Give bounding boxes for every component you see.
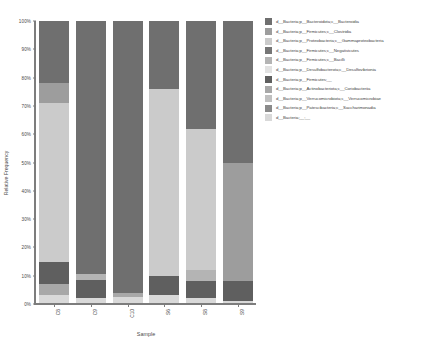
legend-item[interactable]: d__Bacteria;p__Actinobacteriota;c__Corio… (265, 85, 425, 92)
legend-item-label: d__Bacteria;p__Firmicutes;c__Negativicut… (276, 47, 359, 54)
legend-item[interactable]: d__Bacteria;__;__ (265, 114, 425, 121)
y-axis-tick-mark (33, 77, 36, 78)
x-axis-tick-mark (164, 303, 165, 307)
y-axis-tick-mark (33, 304, 36, 305)
legend-color-swatch (265, 38, 272, 45)
y-axis-tick-label: 10% (0, 273, 34, 278)
x-axis-tick-label: C9 (93, 309, 98, 315)
legend-item[interactable]: d__Bacteria;p__Firmicutes;c__Negativicut… (265, 47, 425, 54)
stacked-bar[interactable] (39, 21, 69, 304)
bar-segment[interactable] (223, 21, 253, 163)
legend-item-label: d__Bacteria;p__Proteobacteria;c__Gammapr… (276, 37, 384, 44)
legend-color-swatch (265, 95, 272, 102)
x-axis-tick-mark (238, 303, 239, 307)
legend-item-label: d__Bacteria;__;__ (276, 114, 310, 121)
y-axis-tick-mark (33, 190, 36, 191)
legend-item-label: d__Bacteria;p__Firmicutes;c__Clostridia (276, 28, 351, 35)
legend-item-label: d__Bacteria;p__Firmicutes;c__Bacilli (276, 56, 345, 63)
x-axis-tick-mark (201, 303, 202, 307)
y-axis-tick-mark (33, 134, 36, 135)
x-axis-tick-label: S8 (203, 309, 208, 315)
legend-color-swatch (265, 28, 272, 35)
x-axis-tick-label: S9 (240, 309, 245, 315)
bar-segment[interactable] (186, 281, 216, 298)
legend-item[interactable]: d__Bacteria;p__Firmicutes;c__Bacilli (265, 56, 425, 63)
y-axis-tick-mark (33, 275, 36, 276)
legend-color-swatch (265, 66, 272, 73)
y-axis-tick-label: 90% (0, 47, 34, 52)
y-axis-tick-mark (33, 219, 36, 220)
bar-segment[interactable] (113, 21, 143, 293)
stacked-bar[interactable] (113, 21, 143, 304)
legend-color-swatch (265, 47, 272, 54)
legend-item[interactable]: d__Bacteria;p__Verrucomicrobiota;c__Verr… (265, 95, 425, 102)
y-axis-tick-mark (33, 162, 36, 163)
y-axis-tick-mark (33, 21, 36, 22)
bar-segment[interactable] (76, 280, 106, 298)
legend-color-swatch (265, 76, 272, 83)
bar-segment[interactable] (186, 270, 216, 281)
plot-area (36, 21, 256, 304)
bar-segment[interactable] (39, 103, 69, 261)
bar-segment[interactable] (39, 21, 69, 83)
legend-item-label: d__Bacteria;p__Desulfobacterota;c__Desul… (276, 66, 376, 73)
legend: d__Bacteria;p__Bacteroidota;c__Bacteroid… (265, 18, 425, 124)
legend-item-label: d__Bacteria;p__Firmicutes;__ (276, 76, 332, 83)
stacked-bar[interactable] (149, 21, 179, 304)
stacked-bar[interactable] (186, 21, 216, 304)
legend-item[interactable]: d__Bacteria;p__Proteobacteria;c__Gammapr… (265, 37, 425, 44)
bar-segment[interactable] (76, 21, 106, 274)
bar-segment[interactable] (149, 276, 179, 296)
x-axis-tick-mark (54, 303, 55, 307)
legend-item[interactable]: d__Bacteria;p__Firmicutes;__ (265, 76, 425, 83)
legend-item[interactable]: d__Bacteria;p__Bacteroidota;c__Bacteroid… (265, 18, 425, 25)
x-axis-tick-label: S6 (166, 309, 171, 315)
bar-segment[interactable] (39, 284, 69, 295)
legend-color-swatch (265, 114, 272, 121)
x-axis-tick-label: C10 (130, 309, 135, 318)
legend-color-swatch (265, 86, 272, 93)
y-axis-tick-label: 100% (0, 19, 34, 24)
x-axis-tick-label: C8 (56, 309, 61, 315)
x-axis-tick-mark (91, 303, 92, 307)
bar-segment[interactable] (223, 281, 253, 301)
y-axis-tick-label: 0% (0, 302, 34, 307)
y-axis-tick-label: 70% (0, 103, 34, 108)
bar-segment[interactable] (39, 262, 69, 285)
chart-root: Relative Frequency Sample d__Bacteria;p_… (0, 0, 429, 345)
y-axis-tick-label: 20% (0, 245, 34, 250)
legend-item[interactable]: d__Bacteria;p__Firmicutes;c__Clostridia (265, 28, 425, 35)
x-axis-tick-mark (128, 303, 129, 307)
y-axis-tick-label: 30% (0, 217, 34, 222)
y-axis-tick-label: 80% (0, 75, 34, 80)
stacked-bar[interactable] (76, 21, 106, 304)
y-axis-tick-mark (33, 247, 36, 248)
legend-color-swatch (265, 105, 272, 112)
y-axis-tick-label: 60% (0, 132, 34, 137)
legend-item-label: d__Bacteria;p__Actinobacteriota;c__Corio… (276, 85, 370, 92)
legend-color-swatch (265, 57, 272, 64)
bar-segment[interactable] (149, 89, 179, 276)
legend-item-label: d__Bacteria;p__Bacteroidota;c__Bacteroid… (276, 18, 359, 25)
legend-item[interactable]: d__Bacteria;p__Desulfobacterota;c__Desul… (265, 66, 425, 73)
bar-segment[interactable] (223, 163, 253, 282)
legend-item-label: d__Bacteria;p__Patescibacteria;c__Saccha… (276, 104, 376, 111)
bar-segment[interactable] (186, 129, 216, 271)
bar-segment[interactable] (186, 21, 216, 129)
x-axis-label: Sample (36, 331, 256, 337)
legend-color-swatch (265, 18, 272, 25)
y-axis-tick-mark (33, 49, 36, 50)
bar-segment[interactable] (39, 83, 69, 103)
stacked-bar[interactable] (223, 21, 253, 304)
y-axis-tick-label: 50% (0, 160, 34, 165)
bar-segment[interactable] (149, 21, 179, 89)
legend-item-label: d__Bacteria;p__Verrucomicrobiota;c__Verr… (276, 95, 381, 102)
legend-item[interactable]: d__Bacteria;p__Patescibacteria;c__Saccha… (265, 104, 425, 111)
y-axis-tick-label: 40% (0, 188, 34, 193)
y-axis-tick-mark (33, 105, 36, 106)
x-axis-line (34, 303, 256, 305)
